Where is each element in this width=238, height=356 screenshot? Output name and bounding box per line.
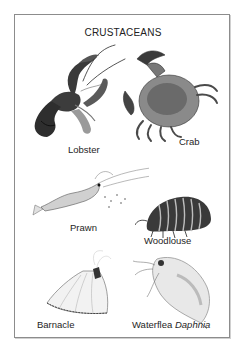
waterflea-genus-name: Daphnia <box>175 319 210 330</box>
crustaceans-plate: CRUSTACEANS Lobster <box>14 14 230 338</box>
barnacle-label: Barnacle <box>37 319 75 330</box>
barnacle-illustration <box>41 247 121 319</box>
waterflea-common-name: Waterflea <box>132 319 172 330</box>
prawn-label: Prawn <box>70 222 97 233</box>
lobster-illustration <box>21 41 131 141</box>
woodlouse-label: Woodlouse <box>144 235 191 246</box>
crab-illustration <box>121 43 227 143</box>
waterflea-label: Waterflea Daphnia <box>132 319 210 330</box>
prawn-illustration <box>29 165 149 223</box>
crab-label: Crab <box>179 136 200 147</box>
lobster-label: Lobster <box>68 144 100 155</box>
plate-title: CRUSTACEANS <box>15 27 231 38</box>
woodlouse-illustration <box>135 191 215 239</box>
